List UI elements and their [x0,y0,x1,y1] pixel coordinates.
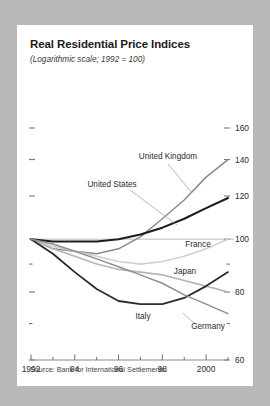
series-label-germany: Germany [191,322,226,331]
y-tick-label: 140 [235,155,249,165]
x-axis [31,355,228,361]
series-label-france: France [185,240,211,249]
y-axis-tick-labels: 6080100120140160 [235,123,249,365]
series-line-united-states [31,198,228,242]
chart-card: Real Residential Price Indices (Logarith… [17,25,253,386]
x-tick-label: 2000 [197,364,216,374]
y-tick-label: 100 [235,234,249,244]
series-label-japan: Japan [174,267,197,276]
y-tick-label: 60 [235,355,245,365]
y-tick-label: 160 [235,123,249,133]
screenshot-root: Real Residential Price Indices (Logarith… [0,0,270,406]
series-label-italy: Italy [135,312,151,321]
y-tick-label: 80 [235,287,245,297]
line-chart: 6080100120140160 United KingdomUnited St… [17,25,253,386]
y-tick-label: 120 [235,191,249,201]
leader-line [168,164,192,193]
leader-line [130,190,177,225]
y-axis-ticks-left [29,128,35,360]
series-label-united-kingdom: United Kingdom [139,152,197,161]
source-note: Source: Bank for International Settlemen… [30,365,167,374]
series-label-united-states: United States [87,180,136,189]
